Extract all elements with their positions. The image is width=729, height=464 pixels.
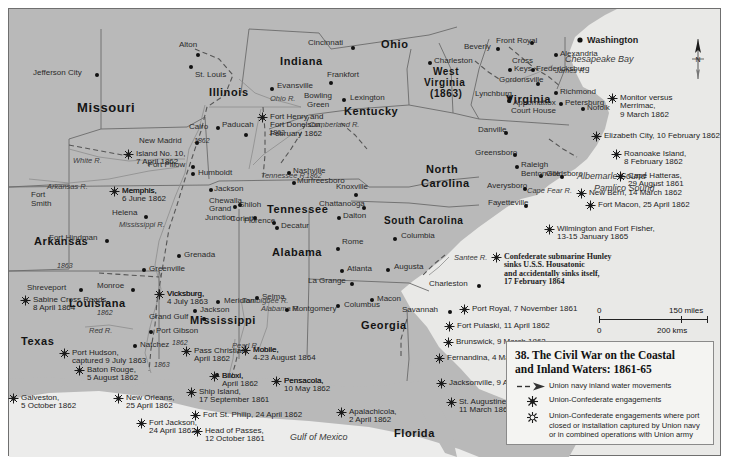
event-label: Cape Hatteras,29 August 1861 <box>628 172 684 189</box>
event-label-line: 13-15 January 1865 <box>557 233 655 241</box>
city-label: Jackson <box>200 306 229 314</box>
event-label-line: Port Royal, 7 November 1861 <box>472 305 577 313</box>
city-label: Chattanooga <box>319 200 365 208</box>
city-label: Columbia <box>401 232 435 240</box>
event-label: Head of Passes,12 October 1861 <box>205 427 265 444</box>
city-marker-dot <box>133 344 137 348</box>
engagement-starburst-icon <box>271 376 282 387</box>
event-label: Baton Rouge,5 August 1862 <box>87 366 138 383</box>
city-marker-dot <box>504 131 508 135</box>
city-marker-dot <box>337 216 341 220</box>
city-label: Humboldt <box>198 169 232 177</box>
engagement-starburst-icon <box>544 224 555 235</box>
event-label: Ship Island,17 September 1861 <box>199 388 269 405</box>
state-label: North <box>426 164 458 176</box>
city-label: Cincinnati <box>308 39 343 47</box>
event-label: Wilmington and Fort Fisher,13-15 January… <box>557 225 655 242</box>
scale-kms-zero: 0 <box>597 326 601 335</box>
city-label: Danville <box>478 126 506 134</box>
event-label: Pass Christian,April 1862 <box>194 347 248 364</box>
legend-text-engagements: Union-Confederate engagements <box>549 395 661 404</box>
engagement-starburst-icon <box>607 93 618 104</box>
engagement-starburst-icon <box>611 149 622 160</box>
city-label: Lynchburg <box>475 90 512 98</box>
event-label: New Orleans,25 April 1862 <box>126 394 174 411</box>
city-label: Meridian <box>224 297 255 305</box>
city-label: Junction <box>205 214 235 222</box>
city-label: Selma <box>262 293 285 301</box>
river-label: Arkansas R. <box>47 183 88 191</box>
engagement-starburst-icon <box>436 378 447 389</box>
state-label: Illinois <box>209 87 249 99</box>
year-label: 1863 <box>57 262 73 269</box>
city-label: Alton <box>179 41 197 49</box>
legend-title: 38. The Civil War on the Coastal and Inl… <box>515 348 705 376</box>
city-marker-dot <box>393 237 397 241</box>
engagement-starburst-icon <box>615 171 626 182</box>
event-label: St. Augustine,11 March 1862 <box>459 398 512 415</box>
map-legend: 38. The Civil War on the Coastal and Inl… <box>506 341 714 445</box>
engagement-starburst-icon <box>591 131 602 142</box>
city-marker-dot <box>515 165 519 169</box>
event-label-line: 9 March 1862 <box>620 111 672 119</box>
starburst-dark-icon <box>515 395 549 407</box>
city-marker-dot <box>336 247 340 251</box>
event-label: Fort St. Philip, 24 April 1862 <box>203 411 302 419</box>
event-label: Fort Jackson,24 April 1862 <box>149 419 197 436</box>
city-label: Rome <box>342 238 363 246</box>
river-label: Santee R. <box>454 254 487 262</box>
city-marker-dot <box>362 206 366 210</box>
event-label-line: New Bern, 14 March 1862 <box>589 189 682 197</box>
city-label: Frankfort <box>327 71 359 79</box>
city-label: Paducah <box>222 121 254 129</box>
state-label: Carolina <box>421 178 470 190</box>
city-marker-dot <box>507 99 511 103</box>
scale-bar-line <box>599 319 707 320</box>
city-label: Helena <box>112 209 137 217</box>
city-marker-dot <box>196 53 200 57</box>
event-label: Roanoake Island,8 February 1862 <box>624 150 686 167</box>
city-marker-dot <box>496 47 500 51</box>
state-label: Ohio <box>381 39 408 51</box>
state-label: (1863) <box>430 89 463 100</box>
city-label: Nofolk <box>587 104 610 112</box>
legend-row-navy-movements: Union navy inland water movements <box>515 381 705 391</box>
river-label: Mississippi R. <box>119 221 165 229</box>
event-label-line: 4 July 1863 <box>167 298 208 306</box>
city-marker-dot <box>386 268 390 272</box>
city-label: Columbus <box>344 301 380 309</box>
dashed-arrow-icon <box>515 381 549 391</box>
city-label: Savannah <box>402 306 438 314</box>
city-label: Fredericksburg <box>536 65 589 73</box>
city-marker-dot <box>238 203 242 207</box>
city-label: Macon <box>377 295 401 303</box>
event-label: Pensacola,10 May 1862 <box>284 377 330 394</box>
city-label: Decatur <box>281 222 309 230</box>
engagement-starburst-icon <box>113 393 124 404</box>
state-label: Mississippi <box>190 315 256 327</box>
city-label: Monroe <box>97 282 124 290</box>
state-label: Virginia <box>424 78 465 89</box>
legend-title-line1: 38. The Civil War on the Coastal <box>515 348 705 362</box>
event-label-line: February 1862 <box>270 130 323 138</box>
city-label: Court House <box>511 107 556 115</box>
city-marker-dot <box>216 126 220 130</box>
city-label: Alexandria <box>560 50 598 58</box>
city-marker-dot <box>536 82 540 86</box>
florida-peninsula <box>405 381 457 457</box>
city-label: Montgomery <box>292 305 336 313</box>
event-label-line: Fort Macon, 25 April 1862 <box>598 201 690 209</box>
city-label: Atlanta <box>347 265 372 273</box>
city-marker-dot <box>253 216 257 220</box>
event-label: New Bern, 14 March 1862 <box>589 189 682 197</box>
engagement-starburst-icon <box>186 387 197 398</box>
event-label-line: 10 May 1862 <box>284 385 330 393</box>
scale-bar: 0 150 miles 0 200 kms <box>597 307 717 341</box>
city-label: Nashville <box>293 167 325 175</box>
event-label: Memphis,6 June 1862 <box>122 187 166 204</box>
map-screenshot: MissouriIllinoisIndianaOhioKentuckyWestV… <box>0 0 729 464</box>
capital-marker-dot <box>574 35 585 46</box>
year-label: 1863 <box>154 361 170 368</box>
event-label-line: Washington <box>587 36 638 45</box>
scale-miles-max: 150 miles <box>669 306 703 315</box>
